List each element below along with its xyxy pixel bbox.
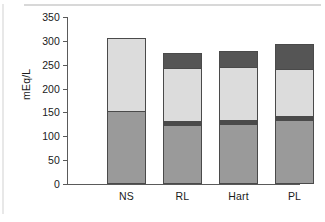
x-tick-label-ns: NS: [107, 190, 146, 202]
bar-segment: [164, 54, 201, 69]
y-tick-mark: [63, 184, 67, 185]
bar-rl[interactable]: [163, 53, 202, 184]
bar-segment: [108, 112, 145, 183]
y-tick-label: 200: [42, 83, 60, 95]
bar-segment: [220, 125, 257, 183]
bar-segment: [220, 68, 257, 121]
bar-hart[interactable]: [219, 51, 258, 184]
x-axis-line: [64, 184, 300, 185]
y-tick-mark: [63, 17, 67, 18]
y-tick-mark: [63, 160, 67, 161]
y-axis-line: [67, 17, 68, 184]
scan-artifact-left: [2, 4, 4, 214]
y-tick-label: 350: [42, 11, 60, 23]
bar-segment: [276, 121, 313, 183]
bar-segment: [220, 52, 257, 68]
y-tick-mark: [63, 136, 67, 137]
y-tick-label: 150: [42, 106, 60, 118]
scan-artifact-top: [24, 4, 321, 6]
y-tick-mark: [63, 89, 67, 90]
chart-figure: mEq/L 050100150200250300350 NSRLHartPL: [0, 0, 325, 222]
y-tick-mark: [63, 112, 67, 113]
bar-segment: [108, 39, 145, 112]
y-tick-label: 100: [42, 130, 60, 142]
bar-pl[interactable]: [275, 44, 314, 184]
x-tick-label-hart: Hart: [219, 190, 258, 202]
y-tick-mark: [63, 41, 67, 42]
bar-segment: [164, 126, 201, 183]
bar-segment: [276, 45, 313, 70]
bar-segment: [276, 70, 313, 118]
y-tick-label: 300: [42, 35, 60, 47]
y-tick-mark: [63, 65, 67, 66]
y-axis-title: mEq/L: [20, 69, 32, 100]
x-tick-label-rl: RL: [163, 190, 202, 202]
plot-area: 050100150200250300350 NSRLHartPL: [67, 17, 300, 184]
y-tick-label: 250: [42, 59, 60, 71]
y-tick-label: 0: [54, 178, 60, 190]
x-tick-label-pl: PL: [275, 190, 314, 202]
y-tick-label: 50: [48, 154, 60, 166]
bar-ns[interactable]: [107, 38, 146, 184]
bar-segment: [164, 69, 201, 122]
